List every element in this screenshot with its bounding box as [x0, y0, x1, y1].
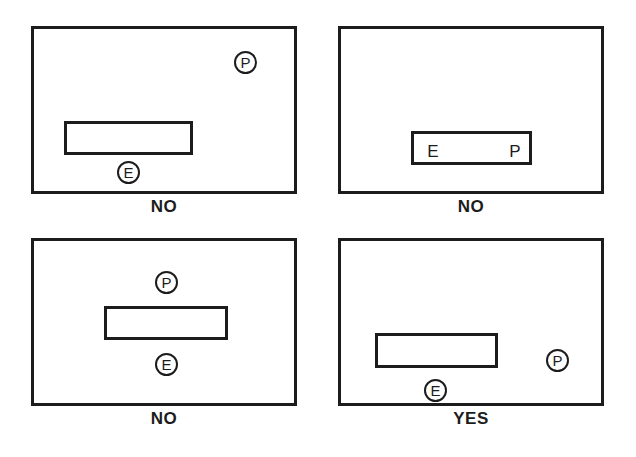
caption-panel-top-left: NO: [31, 197, 297, 217]
caption-panel-bottom-right: YES: [338, 409, 604, 429]
bar-rectangle: E P: [411, 131, 532, 165]
panel-top-right: E P: [338, 26, 604, 194]
p-marker-circled-icon: P: [234, 51, 257, 74]
e-marker-label: E: [430, 383, 440, 398]
panel-top-left: P E: [31, 26, 297, 194]
p-marker-label: P: [240, 55, 250, 70]
e-marker-label: E: [161, 357, 171, 372]
panel-bottom-left: P E: [31, 238, 297, 406]
panel-bottom-right: E P: [338, 238, 604, 406]
figure-root: P E NO E P NO P E NO E P YES: [0, 0, 636, 457]
e-marker-label: E: [123, 165, 133, 180]
caption-panel-bottom-left: NO: [31, 409, 297, 429]
p-marker-circled-icon: P: [155, 271, 178, 294]
bar-rectangle: [375, 333, 498, 368]
p-marker-label: P: [508, 143, 522, 160]
e-marker-label: E: [426, 143, 440, 160]
e-marker-circled-icon: E: [117, 161, 140, 184]
e-marker-circled-icon: E: [155, 353, 178, 376]
p-marker-label: P: [161, 275, 171, 290]
p-marker-circled-icon: P: [546, 349, 569, 372]
e-marker-circled-icon: E: [424, 379, 447, 402]
caption-panel-top-right: NO: [338, 197, 604, 217]
bar-rectangle: [64, 121, 193, 155]
bar-rectangle: [104, 306, 228, 340]
p-marker-label: P: [552, 353, 562, 368]
